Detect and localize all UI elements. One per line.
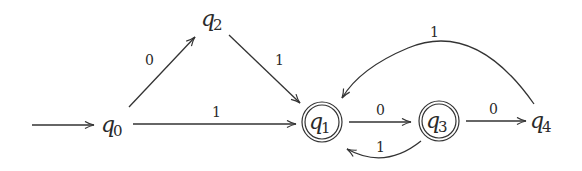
state-q2: q 2 xyxy=(201,6,223,34)
edge-label-q1-q3: 0 xyxy=(376,102,385,118)
edge-label-q4-q1: 1 xyxy=(430,24,439,40)
edge-label-q3-q4: 0 xyxy=(489,101,498,117)
state-q0: q 0 xyxy=(101,112,123,140)
state-q0-sub: 0 xyxy=(113,122,123,140)
state-q4: q 4 xyxy=(530,108,552,136)
state-q4-sub: 4 xyxy=(542,118,552,136)
edge-q4-q1 xyxy=(342,41,534,104)
state-q3: q 3 xyxy=(419,101,459,141)
edge-label-q2-q1: 1 xyxy=(275,52,284,68)
edge-q0-q2 xyxy=(129,37,195,107)
state-q1-sub: 1 xyxy=(321,119,331,137)
dfa-diagram: 0 1 1 0 1 0 1 q 0 q 2 q 1 q 3 q 4 xyxy=(0,0,582,171)
state-q3-sub: 3 xyxy=(438,118,448,136)
state-q1: q 1 xyxy=(302,102,342,142)
edge-q2-q1 xyxy=(229,35,300,103)
edge-label-q0-q2: 0 xyxy=(145,52,154,68)
edge-label-q3-q1: 1 xyxy=(376,139,385,155)
state-q2-sub: 2 xyxy=(213,16,223,34)
edge-label-q0-q1: 1 xyxy=(212,104,221,120)
